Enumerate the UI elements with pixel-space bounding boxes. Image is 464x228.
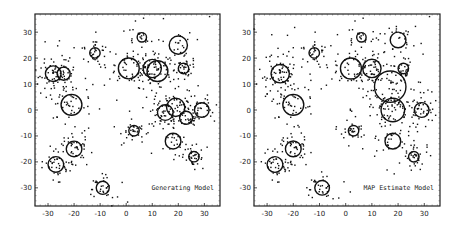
data-point: [404, 116, 405, 117]
data-point: [307, 106, 308, 107]
data-point: [360, 37, 361, 38]
data-point: [337, 53, 338, 54]
data-point: [384, 114, 385, 115]
data-point: [355, 116, 356, 117]
data-point: [179, 147, 180, 148]
data-point: [119, 78, 120, 79]
data-point: [169, 63, 170, 64]
data-point: [278, 78, 279, 79]
x-tick-label: 0: [124, 210, 128, 218]
data-point: [429, 16, 430, 17]
data-point: [420, 153, 421, 154]
data-point: [331, 78, 332, 79]
data-point: [417, 102, 418, 103]
data-point: [387, 74, 388, 75]
data-point: [169, 97, 170, 98]
data-point: [179, 111, 180, 112]
data-point: [293, 83, 294, 84]
data-point: [283, 137, 284, 138]
data-point: [93, 41, 94, 42]
data-point: [366, 95, 367, 96]
data-point: [129, 29, 130, 30]
data-point: [194, 95, 195, 96]
data-point: [394, 107, 395, 108]
data-point: [364, 66, 365, 67]
data-point: [142, 74, 143, 75]
data-point: [362, 97, 363, 98]
data-point: [386, 169, 387, 170]
data-point: [163, 65, 164, 66]
data-point: [278, 168, 279, 169]
data-point: [75, 98, 76, 99]
data-point: [395, 75, 396, 76]
data-point: [272, 84, 273, 85]
data-point: [405, 114, 406, 115]
data-point: [178, 42, 179, 43]
data-point: [154, 99, 155, 100]
x-tick-label: 30: [420, 210, 429, 218]
data-point: [406, 152, 407, 153]
data-point: [423, 104, 424, 105]
data-point: [41, 77, 42, 78]
data-point: [413, 123, 414, 124]
data-point: [56, 158, 57, 159]
data-point: [278, 116, 279, 117]
data-point: [384, 43, 385, 44]
data-point: [413, 100, 414, 101]
data-point: [44, 58, 45, 59]
data-point: [431, 91, 432, 92]
data-point: [176, 105, 177, 106]
data-point: [120, 133, 121, 134]
data-point: [360, 77, 361, 78]
data-point: [371, 90, 372, 91]
data-point: [355, 51, 356, 52]
data-point: [69, 170, 70, 171]
data-point: [408, 135, 409, 136]
data-point: [347, 62, 348, 63]
data-point: [397, 93, 398, 94]
data-point: [356, 80, 357, 81]
data-point: [403, 57, 404, 58]
data-point: [314, 31, 315, 32]
data-point: [135, 20, 136, 21]
data-point: [287, 35, 288, 36]
data-point: [350, 191, 351, 192]
data-point: [123, 142, 124, 143]
data-point: [54, 78, 55, 79]
data-point: [369, 106, 370, 107]
data-point: [174, 64, 175, 65]
data-point: [391, 135, 392, 136]
data-point: [304, 87, 305, 88]
data-point: [277, 48, 278, 49]
data-point: [201, 159, 202, 160]
data-point: [64, 76, 65, 77]
data-point: [293, 68, 294, 69]
data-point: [280, 143, 281, 144]
data-point: [346, 120, 347, 121]
data-point: [37, 83, 38, 84]
data-point: [261, 161, 262, 162]
data-point: [177, 107, 178, 108]
x-tick-label: -10: [94, 210, 105, 218]
data-point: [293, 126, 294, 127]
data-point: [335, 64, 336, 65]
data-point: [65, 123, 66, 124]
data-point: [384, 125, 385, 126]
data-point: [348, 64, 349, 65]
data-point: [415, 126, 416, 127]
data-point: [287, 137, 288, 138]
data-point: [410, 145, 411, 146]
data-point: [151, 90, 152, 91]
data-point: [179, 40, 180, 41]
data-point: [373, 90, 374, 91]
data-point: [159, 101, 160, 102]
data-point: [165, 115, 166, 116]
data-point: [142, 57, 143, 58]
data-point: [399, 37, 400, 38]
data-point: [402, 70, 403, 71]
data-point: [61, 143, 62, 144]
data-point: [396, 28, 397, 29]
data-point: [70, 101, 71, 102]
data-point: [394, 173, 395, 174]
data-point: [362, 59, 363, 60]
